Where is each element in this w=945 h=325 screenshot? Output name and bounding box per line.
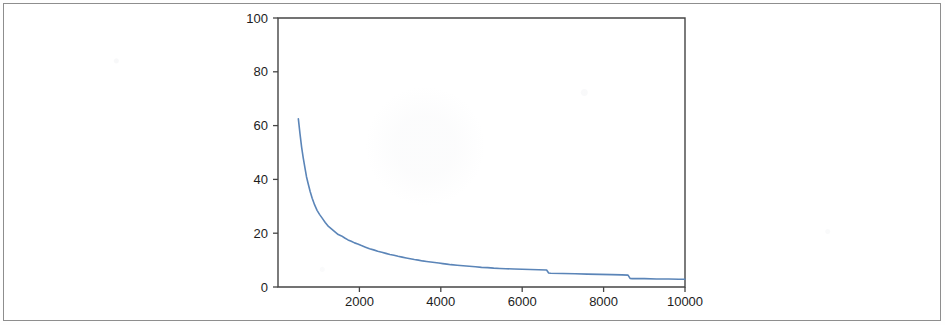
x-tick-label: 10000 — [667, 294, 703, 309]
chart-svg: 020406080100 200040006000800010000 — [0, 0, 945, 325]
x-tick-label: 2000 — [345, 294, 374, 309]
data-series-line — [298, 119, 685, 279]
y-tick-label: 60 — [254, 118, 268, 133]
data-series-group — [298, 119, 685, 279]
x-tick-label: 8000 — [589, 294, 618, 309]
y-tick-label: 80 — [254, 64, 268, 79]
y-tick-label: 20 — [254, 226, 268, 241]
x-axis-tick-marks — [359, 287, 685, 292]
plot-frame-spines — [278, 18, 685, 287]
figure-page: 020406080100 200040006000800010000 — [0, 0, 945, 325]
y-axis-tick-labels: 020406080100 — [246, 11, 268, 295]
x-tick-label: 6000 — [508, 294, 537, 309]
y-tick-label: 100 — [246, 11, 268, 26]
y-tick-label: 0 — [261, 280, 268, 295]
plot-frame — [278, 18, 685, 287]
x-axis-tick-labels: 200040006000800010000 — [345, 294, 703, 309]
y-axis-tick-marks — [273, 18, 278, 287]
line-chart: 020406080100 200040006000800010000 — [0, 0, 945, 325]
x-tick-label: 4000 — [426, 294, 455, 309]
y-tick-label: 40 — [254, 172, 268, 187]
